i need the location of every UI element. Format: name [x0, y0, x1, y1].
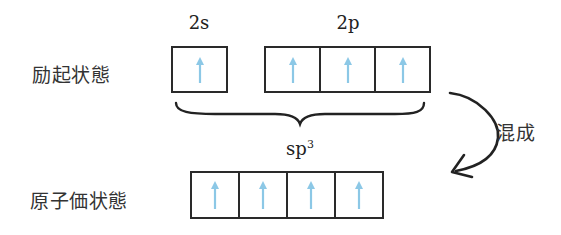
arrowhead-icon	[452, 155, 472, 177]
curved-arrow-icon	[450, 93, 498, 171]
curly-brace-icon	[176, 103, 424, 124]
hybridization-label: 混成	[496, 118, 535, 145]
diagram-overlay	[0, 0, 561, 235]
